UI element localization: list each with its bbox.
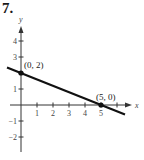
x-tick-label: 4: [83, 109, 87, 118]
x-tick-label: 3: [67, 109, 71, 118]
y-axis-arrow-icon: [19, 26, 24, 33]
x-axis-label: x: [134, 101, 139, 110]
point-label: (5, 0): [96, 92, 116, 102]
y-tick-label: −2: [8, 133, 17, 142]
data-series: [7, 67, 125, 114]
point-label: (0, 2): [24, 60, 44, 70]
data-point: [18, 70, 23, 75]
x-axis-arrow-icon: [125, 103, 132, 108]
y-tick-label: 3: [13, 53, 17, 62]
line-chart: xy 12345−2−1134 (0, 2)(5, 0): [0, 0, 144, 160]
y-axis-label: y: [18, 15, 23, 24]
x-tick-label: 2: [51, 109, 55, 118]
line-series: [7, 67, 125, 114]
data-point: [98, 102, 103, 107]
x-tick-label: 5: [99, 109, 103, 118]
y-tick-label: 4: [13, 37, 17, 46]
y-tick-label: −1: [8, 117, 17, 126]
y-tick-label: 1: [13, 85, 17, 94]
data-points: (0, 2)(5, 0): [18, 60, 115, 108]
axes: xy: [10, 15, 139, 152]
x-tick-label: 1: [35, 109, 39, 118]
